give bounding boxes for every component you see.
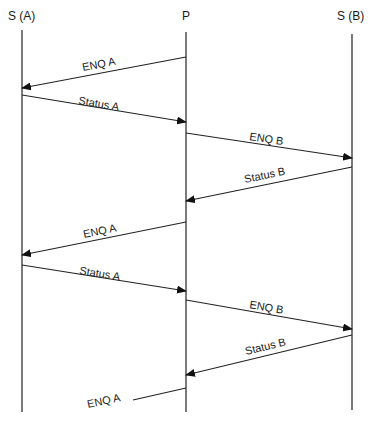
message-label: ENQ A — [81, 55, 117, 73]
participant-label-sa: S (A) — [8, 9, 35, 23]
participant-label-sb: S (B) — [337, 9, 364, 23]
participant-label-p: P — [182, 9, 190, 23]
message-label: Status A — [79, 264, 122, 282]
message-line-enq-a-partial — [133, 388, 186, 400]
message-label: ENQ B — [249, 298, 285, 316]
message-label: Status A — [78, 94, 121, 113]
message-label: ENQ B — [249, 130, 285, 147]
message-label: Status B — [244, 336, 287, 357]
message-label: ENQ A — [86, 391, 122, 410]
sequence-diagram: S (A) P S (B) ENQ A Status A ENQ B Statu… — [0, 0, 376, 425]
